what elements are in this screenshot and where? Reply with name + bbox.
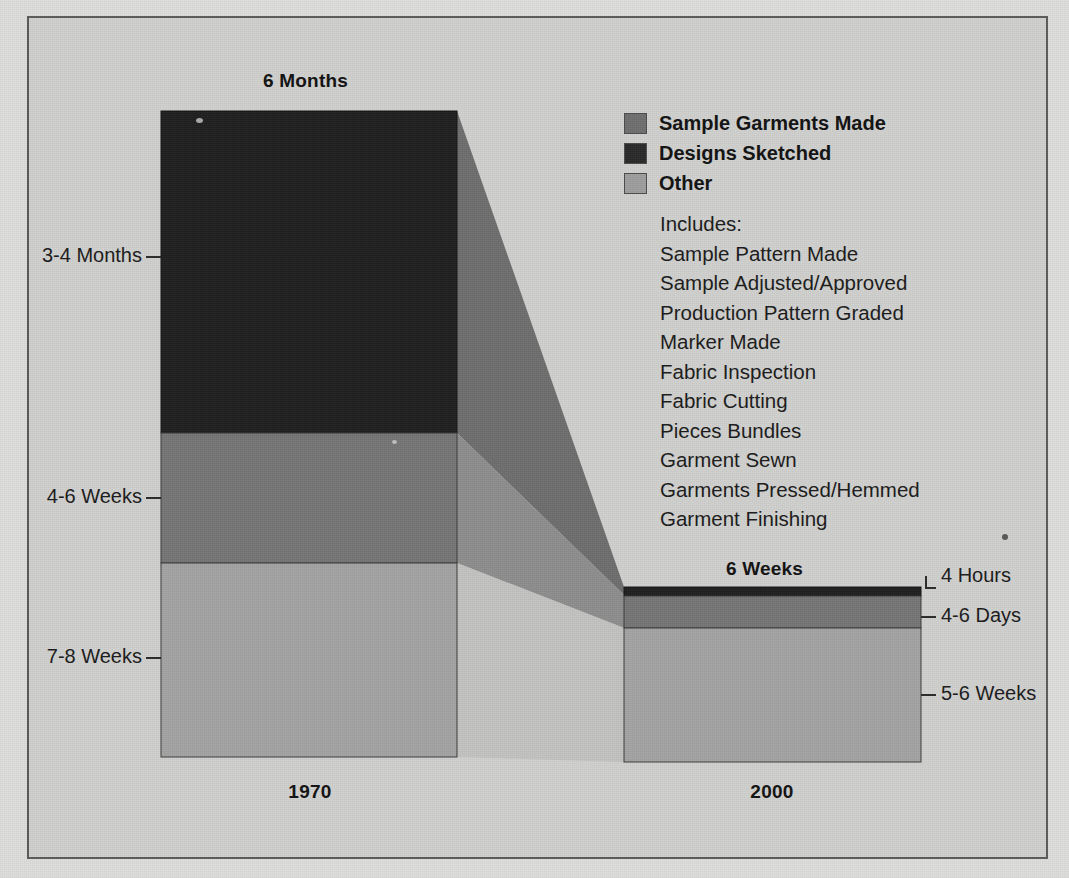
includes-item: Fabric Inspection bbox=[660, 357, 920, 387]
axis-label-right-4-hours: 4 Hours bbox=[941, 564, 1011, 587]
legend-swatch-icon bbox=[624, 173, 647, 194]
includes-item: Sample Adjusted/Approved bbox=[660, 268, 920, 298]
includes-item: Marker Made bbox=[660, 327, 920, 357]
bar-2000-other bbox=[624, 628, 921, 762]
includes-annotation: Includes: Sample Pattern Made Sample Adj… bbox=[660, 209, 920, 534]
legend-label: Other bbox=[659, 172, 712, 195]
chart-page: 6 Months 6 Weeks 3-4 Months 4-6 Weeks 7-… bbox=[0, 0, 1069, 878]
includes-item: Fabric Cutting bbox=[660, 386, 920, 416]
bar-1970-designs-sketched bbox=[161, 111, 457, 433]
axis-label-left-3-4-months: 3-4 Months bbox=[0, 244, 142, 267]
includes-item: Pieces Bundles bbox=[660, 416, 920, 446]
bar-title-2000: 6 Weeks bbox=[726, 558, 803, 580]
legend-item-other: Other bbox=[624, 168, 1024, 198]
includes-item: Garment Finishing bbox=[660, 504, 920, 534]
scan-speck bbox=[196, 118, 203, 123]
axis-label-right-4-6-days: 4-6 Days bbox=[941, 604, 1021, 627]
legend-item-designs-sketched: Designs Sketched bbox=[624, 138, 1024, 168]
bar-title-1970: 6 Months bbox=[263, 70, 348, 92]
axis-label-right-5-6-weeks: 5-6 Weeks bbox=[941, 682, 1036, 705]
includes-item: Garment Sewn bbox=[660, 445, 920, 475]
bar-1970-other bbox=[161, 563, 457, 757]
axis-label-year-2000: 2000 bbox=[672, 781, 872, 803]
legend-swatch-icon bbox=[624, 113, 647, 134]
axis-label-left-4-6-weeks: 4-6 Weeks bbox=[0, 485, 142, 508]
includes-item: Production Pattern Graded bbox=[660, 298, 920, 328]
axis-label-left-7-8-weeks: 7-8 Weeks bbox=[0, 645, 142, 668]
chart-legend: Sample Garments Made Designs Sketched Ot… bbox=[624, 108, 1024, 198]
legend-item-sample-garments-made: Sample Garments Made bbox=[624, 108, 1024, 138]
legend-label: Sample Garments Made bbox=[659, 112, 886, 135]
scan-speck bbox=[392, 440, 397, 444]
bar-2000-sample-garments bbox=[624, 596, 921, 628]
bar-2000-designs-sketched bbox=[624, 587, 921, 596]
includes-heading: Includes: bbox=[660, 209, 920, 239]
includes-item: Sample Pattern Made bbox=[660, 239, 920, 269]
axis-label-year-1970: 1970 bbox=[210, 781, 410, 803]
legend-swatch-icon bbox=[624, 143, 647, 164]
bar-1970-sample-garments bbox=[161, 433, 457, 563]
scan-speck bbox=[1002, 534, 1008, 540]
tick-right-1 bbox=[926, 576, 936, 588]
legend-label: Designs Sketched bbox=[659, 142, 831, 165]
includes-item: Garments Pressed/Hemmed bbox=[660, 475, 920, 505]
